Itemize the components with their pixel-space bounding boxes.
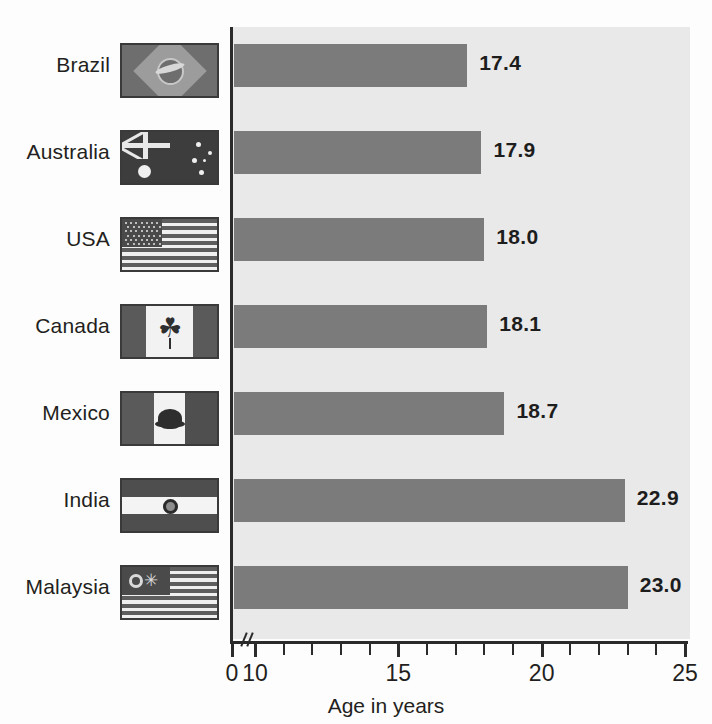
bar-canada <box>234 305 487 348</box>
x-tick-minor <box>627 644 629 655</box>
chart-row-malaysia: Malaysia ✳ 23.0 <box>0 549 712 636</box>
x-tick-label: 20 <box>529 660 555 687</box>
bar-value-india: 22.9 <box>637 486 679 510</box>
x-axis-title-text: Age in years <box>328 694 445 717</box>
bar-value-malaysia: 23.0 <box>640 573 682 597</box>
chart-row-brazil: Brazil 17.4 <box>0 27 712 114</box>
flag-australia-icon <box>120 130 219 185</box>
category-label-canada: Canada <box>0 314 110 338</box>
bar-malaysia <box>234 566 628 609</box>
bar-chart-figure: Brazil 17.4 Australia 17.9 USA <box>0 0 712 724</box>
bar-value-brazil: 17.4 <box>479 51 521 75</box>
chart-row-india: India 22.9 <box>0 462 712 549</box>
chart-row-australia: Australia 17.9 <box>0 114 712 201</box>
bar-usa <box>234 218 484 261</box>
category-label-australia: Australia <box>0 140 110 164</box>
flag-malaysia-icon: ✳ <box>120 565 219 620</box>
chart-row-canada: Canada ☘ 18.1 <box>0 288 712 375</box>
category-label-malaysia: Malaysia <box>0 575 110 599</box>
x-tick-minor <box>369 644 371 655</box>
x-tick-major <box>397 644 400 657</box>
x-tick-minor <box>283 644 285 655</box>
bar-value-canada: 18.1 <box>499 312 541 336</box>
flag-india-icon <box>120 478 219 533</box>
x-tick-minor <box>569 644 571 655</box>
x-tick-minor <box>655 644 657 655</box>
x-tick-major <box>541 644 544 657</box>
chart-rows: Brazil 17.4 Australia 17.9 USA <box>0 27 712 639</box>
x-tick-minor <box>340 644 342 655</box>
x-tick-label: 0 <box>226 660 239 687</box>
bar-india <box>234 479 625 522</box>
x-tick-minor <box>512 644 514 655</box>
x-tick-minor <box>455 644 457 655</box>
category-label-mexico: Mexico <box>0 401 110 425</box>
bar-value-usa: 18.0 <box>496 225 538 249</box>
flag-mexico-icon <box>120 391 219 446</box>
star-icon: ✳ <box>143 573 159 589</box>
bar-value-mexico: 18.7 <box>516 399 558 423</box>
x-tick-minor <box>483 644 485 655</box>
x-tick-label: 15 <box>386 660 412 687</box>
category-label-usa: USA <box>0 227 110 251</box>
bar-brazil <box>234 44 467 87</box>
x-tick-label: 10 <box>242 660 268 687</box>
x-tick-major <box>254 644 257 657</box>
chart-row-usa: USA 18.0 <box>0 201 712 288</box>
category-label-india: India <box>0 488 110 512</box>
x-tick-minor <box>598 644 600 655</box>
x-tick-minor <box>426 644 428 655</box>
chart-row-mexico: Mexico 18.7 <box>0 375 712 462</box>
flag-brazil-icon <box>120 43 219 98</box>
x-axis-title: Age in years <box>0 694 712 718</box>
x-tick-major <box>684 644 687 657</box>
flag-canada-icon: ☘ <box>120 304 219 359</box>
x-tick-label: 25 <box>672 660 698 687</box>
x-axis-tick-labels: 010152025 <box>0 660 712 694</box>
x-tick-major <box>231 644 234 657</box>
category-label-brazil: Brazil <box>0 53 110 77</box>
flag-usa-icon <box>120 217 219 272</box>
bar-mexico <box>234 392 504 435</box>
bar-australia <box>234 131 481 174</box>
bar-value-australia: 17.9 <box>493 138 535 162</box>
x-tick-minor <box>311 644 313 655</box>
